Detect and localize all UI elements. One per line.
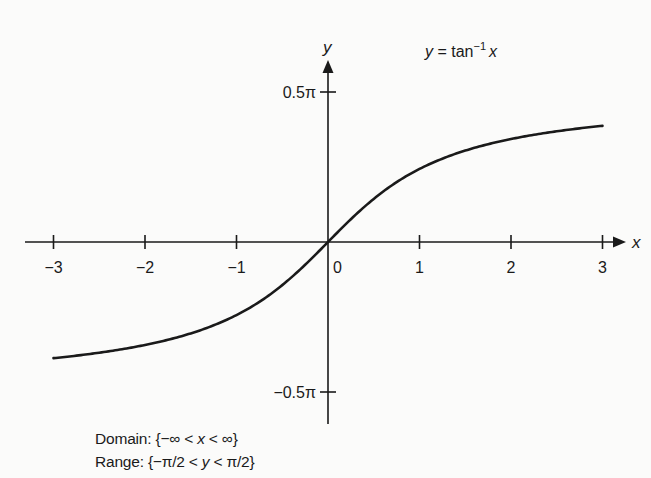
- domain-prefix: Domain: {−∞ <: [95, 430, 197, 447]
- x-tick-label: 2: [507, 259, 516, 276]
- range-note: Range: {−π/2 < y < π/2}: [95, 450, 254, 473]
- x-axis-arrow-icon: [613, 237, 626, 248]
- range-prefix: Range: {−π/2 <: [95, 453, 202, 470]
- domain-var: x: [197, 430, 205, 447]
- x-tick-label: −2: [136, 259, 154, 276]
- title-arg: x: [488, 43, 498, 60]
- x-tick-label: 0: [333, 259, 342, 276]
- domain-suffix: < ∞}: [205, 430, 238, 447]
- x-axis: −3−2−10123 x: [25, 233, 641, 276]
- domain-note: Domain: {−∞ < x < ∞}: [95, 427, 254, 450]
- x-tick-label: −3: [44, 259, 62, 276]
- y-tick-label: 0.5π: [283, 84, 316, 101]
- title-eq: = tan: [433, 43, 473, 60]
- x-tick-label: −1: [227, 259, 245, 276]
- title-sup: −1: [473, 40, 486, 52]
- x-tick-label: 3: [598, 259, 607, 276]
- x-tick-label: 1: [415, 259, 424, 276]
- chart-title: y = tan−1x: [424, 40, 498, 60]
- y-tick-label: −0.5π: [273, 384, 316, 401]
- x-axis-label: x: [631, 233, 641, 252]
- range-suffix: < π/2}: [209, 453, 254, 470]
- domain-range-notes: Domain: {−∞ < x < ∞} Range: {−π/2 < y < …: [95, 427, 254, 473]
- y-axis-arrow-icon: [323, 60, 334, 73]
- chart-canvas: −3−2−10123 x 0.5π−0.5π y y = tan−1x: [0, 0, 651, 478]
- y-axis: 0.5π−0.5π y: [273, 38, 336, 424]
- y-axis-label: y: [322, 38, 333, 57]
